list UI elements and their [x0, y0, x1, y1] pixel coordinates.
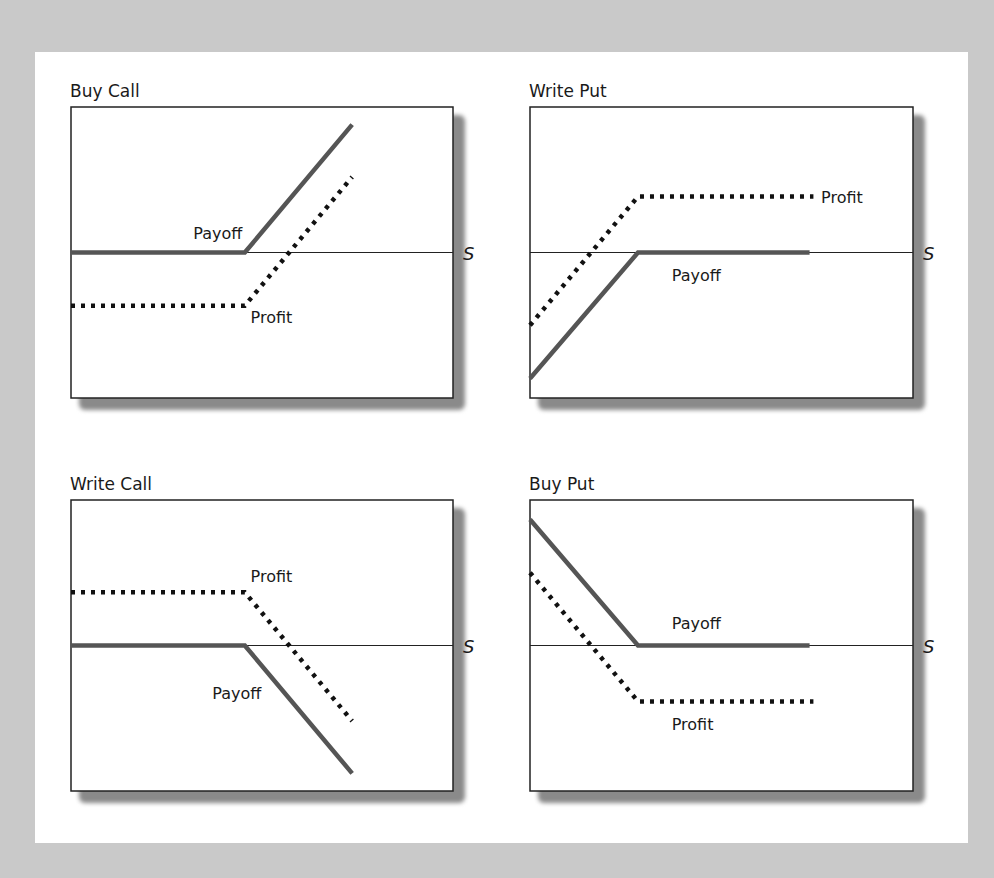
- write-put-title: Write Put: [529, 81, 607, 101]
- buy-put-chart: SPayoffProfit: [530, 500, 913, 791]
- buy-call-title: Buy Call: [70, 81, 140, 101]
- buy-put-title: Buy Put: [529, 474, 594, 494]
- buy-put-profit-label: Profit: [672, 715, 714, 734]
- write-put-x-axis-label: S: [923, 243, 934, 264]
- buy-call-profit-label: Profit: [251, 308, 293, 327]
- write-call-profit-label: Profit: [251, 567, 293, 586]
- write-put-payoff-label: Payoff: [672, 266, 722, 285]
- write-call-chart: SProfitPayoff: [71, 500, 453, 791]
- write-put-profit-label: Profit: [821, 188, 863, 207]
- buy-put-payoff-label: Payoff: [672, 614, 722, 633]
- buy-call-chart: SPayoffProfit: [71, 107, 453, 398]
- write-call-x-axis-label: S: [463, 636, 474, 657]
- buy-call-payoff-label: Payoff: [193, 224, 243, 243]
- write-call-payoff-label: Payoff: [212, 684, 262, 703]
- write-call-title: Write Call: [70, 474, 152, 494]
- write-put-chart: SProfitPayoff: [530, 107, 913, 398]
- buy-call-x-axis-label: S: [463, 243, 474, 264]
- buy-put-x-axis-label: S: [923, 636, 934, 657]
